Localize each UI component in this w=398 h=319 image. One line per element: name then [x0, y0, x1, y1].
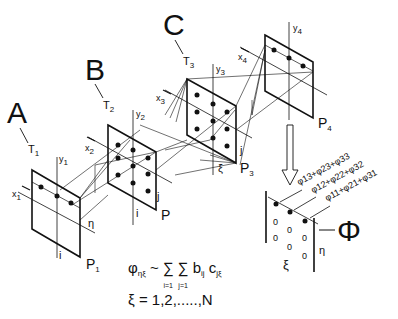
label-t1: T1: [28, 144, 39, 158]
label-y4: y4: [293, 24, 302, 36]
label-p3: P3: [240, 161, 254, 178]
formula-line-2: ξ = 1,2,.....,N: [128, 292, 213, 307]
label-x1: x1: [12, 190, 21, 202]
label-y2: y2: [136, 110, 145, 122]
plane-p1: [32, 170, 80, 257]
label-x4: x4: [238, 53, 247, 65]
output-arrow: [282, 125, 298, 185]
label-xi-c: ξ: [218, 163, 223, 174]
label-p1: P1: [86, 257, 100, 274]
label-p: P: [161, 208, 170, 222]
label-b: B: [85, 55, 105, 85]
label-i-a: i: [59, 250, 61, 261]
label-i-b: i: [136, 208, 138, 219]
label-x2: x2: [85, 144, 94, 156]
label-eta: η: [88, 218, 94, 229]
label-j-c: j: [240, 145, 242, 156]
label-t2: T2: [103, 100, 114, 114]
label-y1: y1: [59, 155, 68, 167]
label-x3: x3: [156, 94, 165, 106]
matrix-zero: 0: [287, 243, 292, 252]
matrix-zero: 0: [273, 234, 278, 243]
matrix-zero: 0: [302, 252, 307, 261]
matrix-zero: 0: [287, 226, 292, 235]
label-eta-out: η: [319, 245, 325, 256]
label-p4: P4: [318, 116, 332, 133]
label-a: A: [7, 98, 27, 128]
formula-line-1: φηξ ~ ∑i=1 ∑j=1 bij cjξ: [128, 260, 222, 290]
label-xi-out: ξ: [283, 258, 289, 271]
label-y3: y3: [216, 65, 225, 77]
matrix-zero: 0: [302, 234, 307, 243]
label-j-b: j: [157, 191, 159, 202]
label-c: C: [163, 10, 185, 40]
label-phi: Φ: [337, 216, 361, 246]
label-t3: T3: [183, 56, 194, 70]
matrix-zero: 0: [273, 218, 278, 227]
